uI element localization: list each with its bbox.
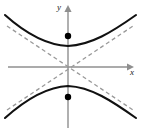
y-axis-arrow-icon: [64, 5, 71, 12]
y-axis-label: y: [56, 2, 61, 12]
x-axis-label: x: [129, 67, 134, 77]
hyperbola-figure: y x: [0, 0, 141, 133]
hyperbola-upper-branch: [5, 15, 136, 46]
upper-focus-point: [65, 33, 71, 39]
figure-canvas: y x: [0, 0, 141, 133]
hyperbola-lower-branch: [5, 86, 136, 118]
lower-focus-point: [65, 94, 71, 100]
